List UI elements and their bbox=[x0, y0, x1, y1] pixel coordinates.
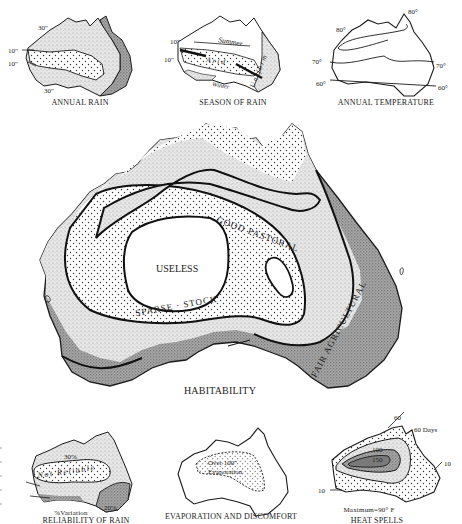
evaporation-line1-label: Over 100" bbox=[208, 459, 237, 467]
habitability-caption: HABITABILITY bbox=[170, 385, 270, 396]
isohyet-10-b-label: 10" bbox=[164, 56, 174, 64]
isohyet-30-bottom-label: 30" bbox=[44, 87, 54, 95]
reliability-of-rain-caption: RELIABILITY OF RAIN bbox=[36, 516, 136, 524]
temp-70-west-label: 70° bbox=[312, 58, 322, 66]
zone-useless-label: USELESS bbox=[156, 263, 198, 274]
heat-60-days-label: 60 Days bbox=[414, 426, 437, 434]
australia-outline-icon: Over 100" Evaporation bbox=[154, 420, 308, 524]
isohyet-30-top-label: 30" bbox=[38, 24, 48, 32]
heat-10-east-label: 10 bbox=[444, 460, 452, 468]
isohyet-10-a-label: 10" bbox=[8, 47, 18, 55]
reliability-of-rain-map: 30% Not Reliable 20% %Variation RELIABIL… bbox=[0, 410, 154, 524]
australia-outline-icon: 80° 80° 70° 70° 60° 60° bbox=[308, 0, 462, 110]
temp-60-east-label: 60° bbox=[438, 84, 448, 92]
annual-rain-map: 30" 10" 10" 30" ANNUAL RAIN bbox=[0, 0, 154, 110]
isohyet-10-a-label: 10" bbox=[170, 38, 180, 46]
australia-outline-icon: 30% Not Reliable 20% bbox=[0, 410, 154, 524]
variation-30-label: 30% bbox=[64, 453, 77, 461]
evaporation-caption: EVAPORATION AND DISCOMFORT bbox=[158, 512, 304, 521]
australia-outline-icon: 30" 10" 10" 30" bbox=[0, 0, 154, 110]
annual-rain-caption: ANNUAL RAIN bbox=[40, 98, 120, 107]
habitability-map: USELESS GOOD PASTORAL SPARSE · STOCK FAI… bbox=[0, 110, 462, 410]
season-of-rain-map: 10" 10" Summer A r i d U n i f o r m Win… bbox=[154, 0, 308, 110]
annual-temperature-caption: ANNUAL TEMPERATURE bbox=[326, 98, 446, 107]
season-of-rain-caption: SEASON OF RAIN bbox=[188, 98, 278, 107]
heat-spells-caption: HEAT SPELLS bbox=[344, 516, 410, 524]
heat-10-west-label: 10 bbox=[318, 487, 326, 495]
heat-spells-map: 60 60 Days 100 150 10 10 Maximum=90° F H… bbox=[308, 410, 462, 524]
evaporation-line2-label: Evaporation bbox=[208, 468, 243, 476]
isohyet-10-b-label: 10" bbox=[8, 60, 18, 68]
temp-80-west-label: 80° bbox=[336, 26, 346, 34]
temp-70-east-label: 70° bbox=[436, 62, 446, 70]
australia-outline-icon: 10" 10" Summer A r i d U n i f o r m Win… bbox=[154, 0, 308, 110]
variation-20-label: 20% bbox=[104, 504, 117, 512]
evaporation-map: Over 100" Evaporation EVAPORATION AND DI… bbox=[154, 420, 308, 524]
heat-spells-subcaption: Maximum=90° F bbox=[334, 506, 404, 514]
heat-100-label: 100 bbox=[372, 446, 383, 454]
annual-temperature-map: 80° 80° 70° 70° 60° 60° ANNUAL TEMPERATU… bbox=[308, 0, 462, 110]
temp-80-east-label: 80° bbox=[408, 8, 418, 16]
heat-150-label: 150 bbox=[372, 456, 383, 464]
australia-outline-icon: USELESS GOOD PASTORAL SPARSE · STOCK FAI… bbox=[0, 110, 462, 410]
heat-60-label: 60 bbox=[394, 414, 402, 422]
temp-60-west-label: 60° bbox=[316, 80, 326, 88]
